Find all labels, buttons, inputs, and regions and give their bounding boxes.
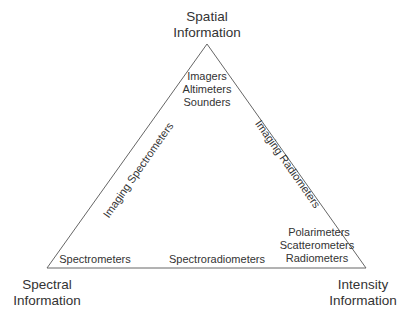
corner-label-spatial: Spatial Information	[157, 9, 257, 41]
instruments-intensity: Polarimeters Scatterometers Radiometers	[272, 226, 362, 265]
corner-label-line: Information	[157, 25, 257, 41]
corner-label-line: Intensity	[318, 277, 408, 293]
instruments-spatial: Imagers Altimeters Sounders	[167, 70, 247, 109]
corner-label-line: Information	[7, 293, 87, 309]
instrument-label: Spectrometers	[55, 253, 135, 266]
triangle-diagram	[0, 0, 410, 319]
corner-label-line: Spatial	[157, 9, 257, 25]
instrument-label: Radiometers	[272, 252, 362, 265]
instrument-label: Sounders	[167, 96, 247, 109]
corner-label-spectral: Spectral Information	[7, 277, 87, 309]
instrument-label: Polarimeters	[272, 226, 362, 239]
instruments-spectral: Spectrometers	[55, 253, 135, 266]
instrument-label: Scatterometers	[272, 239, 362, 252]
corner-label-intensity: Intensity Information	[318, 277, 408, 309]
corner-label-line: Information	[318, 293, 408, 309]
edge-label-text: Spectroradiometers	[169, 253, 265, 265]
instrument-label: Imagers	[167, 70, 247, 83]
corner-label-line: Spectral	[7, 277, 87, 293]
instrument-label: Altimeters	[167, 83, 247, 96]
edge-label-bottom: Spectroradiometers	[157, 253, 277, 266]
